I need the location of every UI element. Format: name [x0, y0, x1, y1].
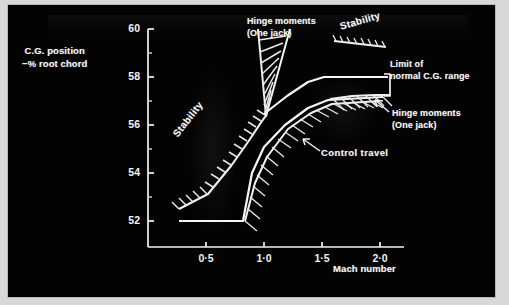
y-tick-label-58: 58: [118, 70, 140, 82]
figure-plate: C.G. position −% root chord Mach number …: [0, 0, 509, 305]
hatch-control-travel: [245, 101, 383, 231]
curve-stability-left: [179, 114, 267, 209]
annotation-hinge-moments-top-line1: Hinge moments: [247, 16, 316, 28]
annotation-limit-line2: normal C.G. range: [390, 71, 470, 83]
curve-stability-top: [334, 41, 386, 47]
curve-control-travel: [245, 101, 380, 221]
x-tick-label-1-0: 1·0: [247, 252, 281, 264]
y-axis-label-line1: C.G. position: [22, 45, 87, 58]
y-axis-major-ticks: [148, 29, 154, 221]
x-axis-label: Mach number: [333, 263, 396, 274]
y-tick-label-56: 56: [118, 118, 140, 130]
y-axis-label: C.G. position −% root chord: [22, 45, 87, 70]
x-tick-label-1-5: 1·5: [305, 252, 339, 264]
y-tick-label-52: 52: [118, 214, 140, 226]
annotation-limit-line1: Limit of: [390, 59, 470, 71]
annotation-hinge-moments-right-line2: (One jack): [392, 120, 461, 132]
x-tick-label-2-0: 2·0: [363, 252, 397, 264]
annotation-limit-normal-cg-range: Limit of normal C.G. range: [390, 59, 470, 82]
x-tick-label-0-5: 0·5: [189, 252, 223, 264]
y-tick-label-60: 60: [118, 22, 140, 34]
annotation-hinge-moments-right-line1: Hinge moments: [392, 108, 461, 120]
y-tick-label-54: 54: [118, 166, 140, 178]
y-axis-label-line2: −% root chord: [22, 58, 87, 71]
annotation-hinge-moments-top: Hinge moments (One jack): [247, 16, 316, 39]
annotation-control-travel: Control travel: [321, 147, 388, 158]
annotation-hinge-moments-top-line2: (One jack): [247, 28, 316, 40]
curve-forward-limit: [179, 97, 383, 221]
annotation-hinge-moments-right: Hinge moments (One jack): [392, 108, 461, 131]
leader-control-travel: [303, 139, 320, 151]
